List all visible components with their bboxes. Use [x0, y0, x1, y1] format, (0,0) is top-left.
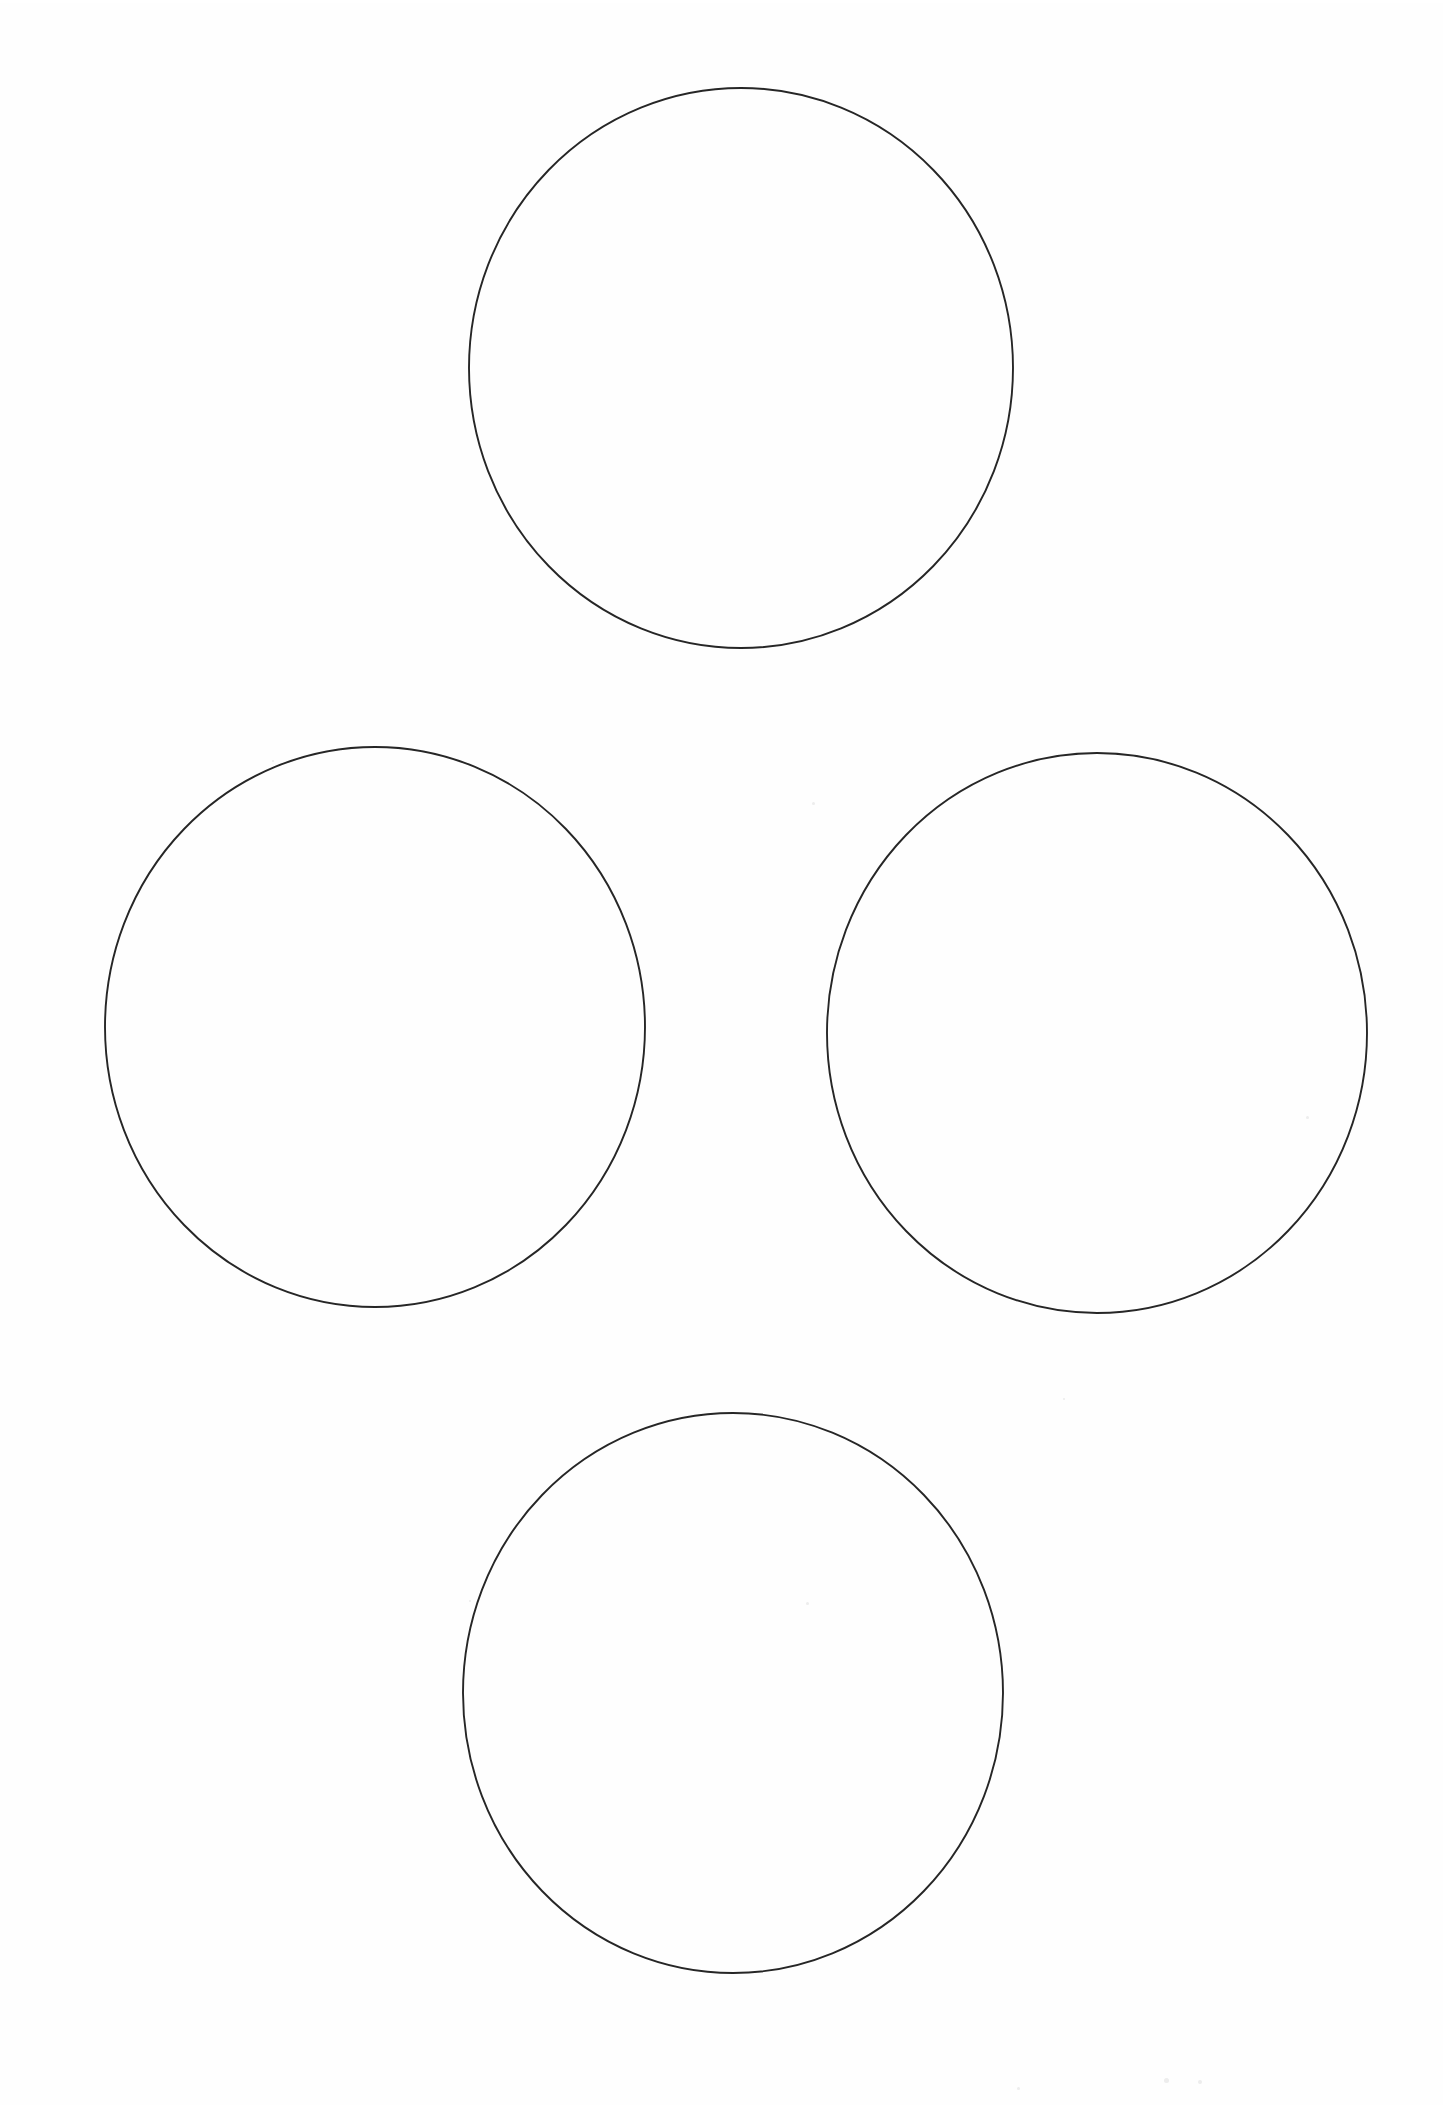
- scan-speck: [1198, 2080, 1202, 2084]
- scan-speck: [812, 802, 815, 805]
- circles-canvas: [0, 0, 1445, 2105]
- circle-bottom[interactable]: [463, 1413, 1003, 1973]
- circle-left[interactable]: [105, 747, 645, 1307]
- scan-speck: [1063, 1398, 1065, 1400]
- circle-top[interactable]: [469, 88, 1013, 648]
- four-circle-figure: [0, 0, 1445, 2105]
- scan-speck: [806, 1602, 809, 1605]
- scan-speck: [1017, 2087, 1020, 2090]
- scan-speck: [469, 1600, 471, 1602]
- scan-speck: [272, 760, 274, 762]
- scan-speck: [1164, 2078, 1169, 2083]
- scan-speck: [1306, 1116, 1309, 1119]
- circle-right[interactable]: [827, 753, 1367, 1313]
- scanned-page: [0, 0, 1445, 2105]
